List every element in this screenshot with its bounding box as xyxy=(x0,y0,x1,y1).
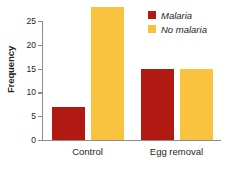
y-tick-mark xyxy=(38,45,43,46)
y-axis-title: Frequency xyxy=(5,30,16,110)
legend: MalariaNo malaria xyxy=(148,9,207,37)
bar-control-no-malaria xyxy=(91,7,124,140)
x-label-control: Control xyxy=(43,146,132,157)
legend-swatch-icon xyxy=(148,25,156,33)
y-tick-label: 15 xyxy=(27,64,36,74)
y-tick-label: 20 xyxy=(27,40,36,50)
y-tick-mark xyxy=(38,92,43,93)
y-tick-label: 0 xyxy=(31,135,36,145)
y-tick-mark xyxy=(38,140,43,141)
legend-swatch-icon xyxy=(148,11,156,19)
bar-egg-removal-no-malaria xyxy=(180,69,213,140)
bar-chart: Frequency 0510152025 ControlEgg removal … xyxy=(0,0,229,170)
bar-egg-removal-malaria xyxy=(141,69,174,140)
y-tick-mark xyxy=(38,116,43,117)
y-tick-label: 5 xyxy=(31,111,36,121)
legend-item-malaria: Malaria xyxy=(148,9,207,21)
x-label-egg-removal: Egg removal xyxy=(132,146,221,157)
legend-label: Malaria xyxy=(161,10,192,21)
bar-control-malaria xyxy=(52,107,85,140)
y-tick-label: 25 xyxy=(27,16,36,26)
y-tick-mark xyxy=(38,69,43,70)
y-tick-mark xyxy=(38,21,43,22)
y-tick-label: 10 xyxy=(27,87,36,97)
legend-item-no-malaria: No malaria xyxy=(148,23,207,35)
legend-label: No malaria xyxy=(161,24,207,35)
